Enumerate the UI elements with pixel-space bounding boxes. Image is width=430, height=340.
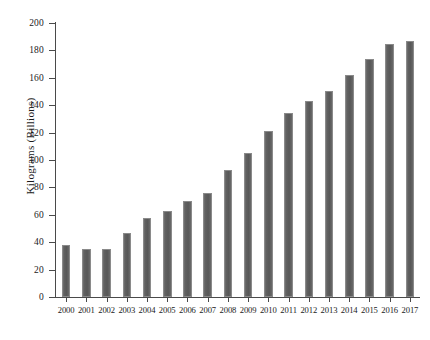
y-axis-tick-label: 80 [4,182,44,192]
y-axis-tick-label: 120 [4,128,44,138]
x-axis-tick [369,297,370,302]
y-axis-tick-label: 100 [4,155,44,165]
x-axis-tick-label: 2017 [393,305,427,316]
y-axis-tick [49,23,56,24]
bar [365,59,374,297]
bar [203,193,212,297]
bar [143,218,152,297]
bar [244,153,253,298]
y-axis-tick-label: 40 [4,237,44,247]
x-axis-tick [410,297,411,302]
y-axis-tick [49,78,56,79]
y-axis-tick-label: 160 [4,73,44,83]
y-axis-tick [49,215,56,216]
bar [264,131,273,297]
bar [183,201,192,297]
x-axis-tick [248,297,249,302]
bar [284,113,293,297]
y-axis-tick [49,133,56,134]
x-axis-tick [228,297,229,302]
bar [224,170,233,297]
x-axis-tick [187,297,188,302]
x-axis-tick [127,297,128,302]
x-axis-tick [167,297,168,302]
y-axis-tick-label: 0 [4,292,44,302]
bar [62,245,71,297]
y-axis-tick [49,160,56,161]
y-axis-tick [49,187,56,188]
x-axis-tick [147,297,148,302]
bars-layer [56,23,420,297]
y-axis-tick [49,297,56,298]
x-axis-spine [55,297,420,298]
x-axis-tick [66,297,67,302]
y-axis-tick [49,105,56,106]
x-axis-tick [86,297,87,302]
y-axis-title: Kilograms (Billions) [22,0,38,296]
bar [305,101,314,297]
bar [385,44,394,297]
bar [82,249,91,297]
x-axis-tick [329,297,330,302]
x-axis-tick [349,297,350,302]
x-axis-tick [268,297,269,302]
y-axis-tick [49,242,56,243]
x-axis-tick [208,297,209,302]
y-axis-tick-label: 180 [4,45,44,55]
x-axis-tick [309,297,310,302]
y-axis-tick-label: 60 [4,210,44,220]
y-axis-tick [49,270,56,271]
y-axis-tick-label: 200 [4,18,44,28]
bar [406,41,415,297]
x-axis-tick [289,297,290,302]
x-axis-tick [390,297,391,302]
y-axis-tick-label: 140 [4,100,44,110]
bar [345,75,354,297]
x-axis-tick [107,297,108,302]
bar [123,233,132,297]
y-axis-tick [49,50,56,51]
bar [102,249,111,297]
bar [163,211,172,297]
bar-chart: Kilograms (Billions) 0204060801001201401… [0,0,430,340]
bar [325,91,334,297]
y-axis-tick-label: 20 [4,265,44,275]
